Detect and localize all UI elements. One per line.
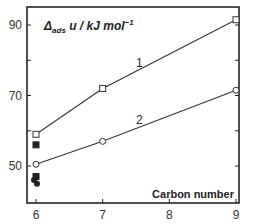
axes-box [27,7,239,203]
series-label: 1 [136,56,143,70]
x-tick-label: 8 [166,208,173,222]
series-2-marker [100,138,106,144]
y-axis-title: Δads u / kJ mol−1 [43,18,134,35]
series-2-marker [233,87,239,93]
series-1-marker [100,85,106,91]
chart: 6789507090 12 Δads u / kJ mol−1 Carbon n… [0,0,254,224]
filled-square-marker [33,142,39,148]
y-tick-label: 70 [9,89,23,103]
y-tick-label: 90 [9,18,23,32]
series-layer: 12 [33,17,239,168]
series-2-marker [33,161,39,167]
x-tick-label: 7 [99,208,106,222]
x-tick-label: 6 [33,208,40,222]
series-1-marker [233,17,239,23]
y-tick-label: 50 [9,159,23,173]
x-axis-title: Carbon number [152,188,235,200]
filled-circle-marker [34,181,40,187]
series-1-marker [33,131,39,137]
x-tick-label: 9 [233,208,240,222]
plot-frame [27,7,239,203]
series-label: 2 [136,113,143,127]
series-2-line [36,90,236,164]
